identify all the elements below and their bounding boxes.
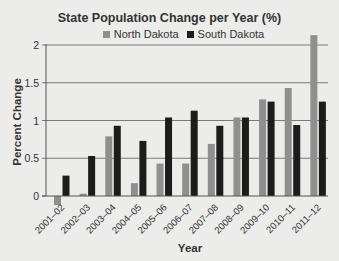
bar-north-dakota [157, 164, 164, 196]
bar-south-dakota [114, 126, 121, 196]
bar-south-dakota [242, 117, 249, 196]
bar-north-dakota [182, 164, 189, 196]
bar-north-dakota [131, 183, 138, 196]
y-tick-label: 0 [33, 190, 39, 202]
bar-north-dakota [310, 35, 317, 196]
x-axis-label: Year [178, 242, 203, 254]
y-tick-label: 1.5 [24, 77, 39, 89]
bar-north-dakota [285, 88, 292, 196]
y-tick-labels: 00.511.52 [24, 39, 39, 202]
bar-south-dakota [139, 141, 146, 196]
y-axis-label: Percent Change [11, 78, 23, 166]
y-tick-label: 1 [33, 115, 39, 127]
bar-south-dakota [268, 102, 275, 196]
y-tick-label: 0.5 [24, 152, 39, 164]
bar-north-dakota [233, 117, 240, 196]
bar-north-dakota [105, 136, 112, 196]
plot-area: 00.511.52 2001–022002–032003–042004–0520… [0, 0, 339, 261]
x-tick-labels: 2001–022002–032003–042004–052005–062006–… [32, 202, 322, 236]
y-tick-label: 2 [33, 39, 39, 51]
bar-south-dakota [165, 117, 172, 196]
chart: State Population Change per Year (%) Nor… [0, 0, 339, 261]
bar-south-dakota [63, 176, 70, 196]
bar-south-dakota [319, 102, 326, 196]
bar-south-dakota [293, 125, 300, 196]
bar-south-dakota [88, 156, 95, 196]
bar-north-dakota [259, 99, 266, 196]
bar-south-dakota [191, 111, 198, 196]
bar-south-dakota [216, 126, 223, 196]
bar-north-dakota [208, 144, 215, 196]
